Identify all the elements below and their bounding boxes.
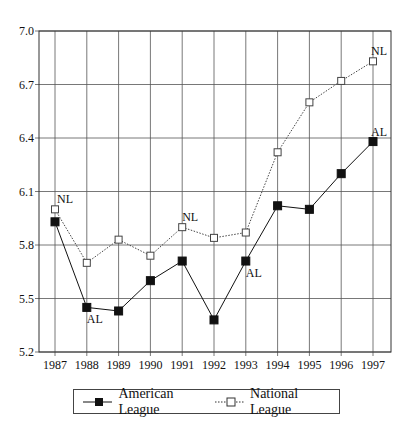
- legend-item-american-league: American League: [82, 386, 208, 418]
- nl-data-point: [274, 149, 281, 156]
- x-tick-label: 1989: [107, 358, 131, 372]
- y-tick-label: 7.0: [19, 24, 34, 38]
- open-square-marker-icon: [214, 396, 244, 408]
- al-data-point: [146, 277, 154, 285]
- x-tick-label: 1996: [329, 358, 353, 372]
- x-tick-label: 1990: [138, 358, 162, 372]
- nl-data-point: [83, 259, 90, 266]
- x-tick-label: 1992: [202, 358, 226, 372]
- nl-data-point: [370, 58, 377, 65]
- y-tick-label: 6.7: [19, 78, 34, 92]
- x-tick-label: 1988: [75, 358, 99, 372]
- legend-label-american-league: American League: [118, 386, 207, 418]
- nl-data-point: [306, 99, 313, 106]
- line-chart: 1987198819891990199119921993199419951996…: [0, 0, 408, 424]
- series-annotation: AL: [371, 125, 387, 139]
- al-data-point: [274, 202, 282, 210]
- y-tick-label: 6.1: [19, 185, 34, 199]
- al-data-point: [178, 257, 186, 265]
- al-data-point: [210, 316, 218, 324]
- al-data-point: [337, 170, 345, 178]
- al-data-point: [242, 257, 250, 265]
- nl-data-point: [115, 236, 122, 243]
- legend: American League National League: [73, 389, 340, 414]
- nl-data-point: [211, 234, 218, 241]
- series-annotation: NL: [182, 210, 198, 224]
- al-data-point: [83, 303, 91, 311]
- x-tick-label: 1995: [297, 358, 321, 372]
- x-tick-label: 1997: [361, 358, 385, 372]
- annotations: NLALNLALNLAL: [57, 44, 387, 326]
- legend-label-national-league: National League: [250, 386, 333, 418]
- x-tick-label: 1987: [43, 358, 67, 372]
- al-data-point: [51, 218, 59, 226]
- tick-labels: 1987198819891990199119921993199419951996…: [19, 24, 385, 372]
- series-annotation: NL: [371, 44, 387, 58]
- series-annotation: AL: [246, 266, 262, 280]
- al-data-point: [369, 138, 377, 146]
- y-tick-label: 6.4: [19, 131, 34, 145]
- y-tick-label: 5.2: [19, 345, 34, 359]
- nl-data-point: [147, 252, 154, 259]
- y-tick-label: 5.8: [19, 238, 34, 252]
- x-tick-label: 1991: [170, 358, 194, 372]
- x-tick-label: 1993: [234, 358, 258, 372]
- al-data-point: [115, 307, 123, 315]
- filled-square-marker-icon: [82, 396, 112, 408]
- nl-data-point: [338, 77, 345, 84]
- nl-data-point: [242, 229, 249, 236]
- series-annotation: AL: [87, 312, 103, 326]
- legend-item-national-league: National League: [214, 386, 333, 418]
- al-data-point: [305, 205, 313, 213]
- x-tick-label: 1994: [266, 358, 290, 372]
- series-annotation: NL: [57, 192, 73, 206]
- nl-data-point: [179, 224, 186, 231]
- y-tick-label: 5.5: [19, 292, 34, 306]
- nl-data-point: [52, 206, 59, 213]
